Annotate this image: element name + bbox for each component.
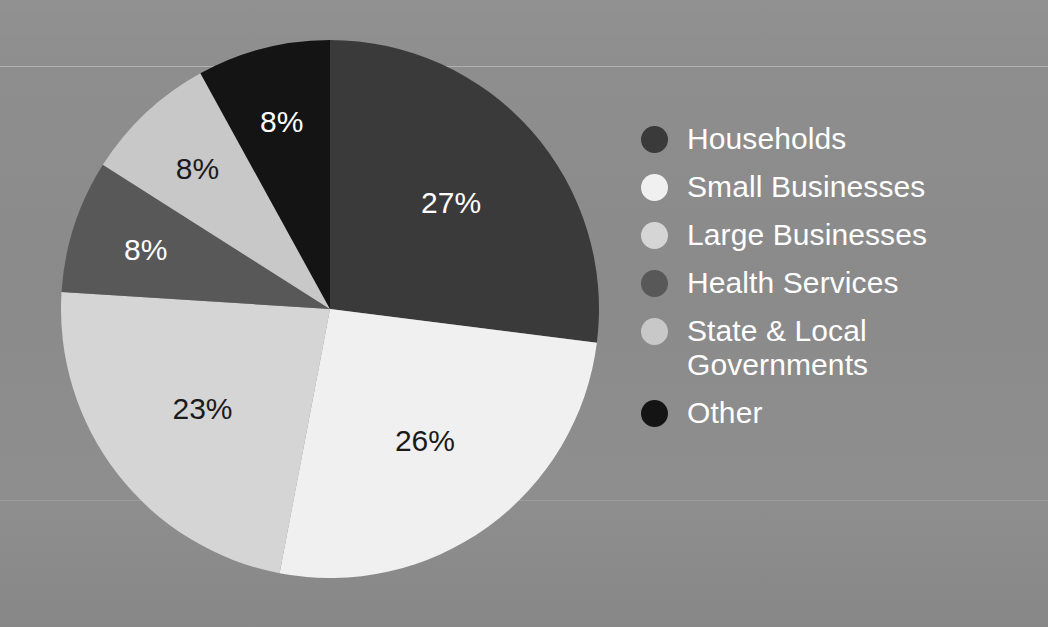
legend-swatch-state-local-governments xyxy=(641,318,668,345)
legend-label-small-businesses: Small Businesses xyxy=(687,170,925,204)
legend-label-health-services: Health Services xyxy=(687,266,899,300)
legend-label-households: Households xyxy=(687,122,846,156)
legend-swatch-large-businesses xyxy=(641,222,668,249)
legend-swatch-other xyxy=(641,400,668,427)
legend-item-other[interactable]: Other xyxy=(641,396,1031,430)
pie-slice-value-label: 8% xyxy=(124,233,167,266)
legend-item-state-local-governments[interactable]: State & Local Governments xyxy=(641,314,1031,382)
legend-swatch-health-services xyxy=(641,270,668,297)
legend-item-small-businesses[interactable]: Small Businesses xyxy=(641,170,1031,204)
chart-legend: Households Small Businesses Large Busine… xyxy=(641,122,1031,430)
pie-chart: 27%26%23%8%8%8% xyxy=(61,40,599,578)
pie-chart-svg: 27%26%23%8%8%8% xyxy=(61,40,599,578)
legend-label-other: Other xyxy=(687,396,763,430)
pie-slice-group xyxy=(61,40,599,578)
legend-item-large-businesses[interactable]: Large Businesses xyxy=(641,218,1031,252)
legend-swatch-households xyxy=(641,126,668,153)
legend-swatch-small-businesses xyxy=(641,174,668,201)
chart-page: 27%26%23%8%8%8% Households Small Busines… xyxy=(0,0,1048,627)
pie-slice-value-label: 26% xyxy=(395,424,455,457)
pie-slice-value-label: 27% xyxy=(421,186,481,219)
legend-item-households[interactable]: Households xyxy=(641,122,1031,156)
legend-label-state-local-governments: State & Local Governments xyxy=(687,314,868,382)
pie-slice-value-label: 8% xyxy=(260,105,303,138)
pie-slice-value-label: 23% xyxy=(172,392,232,425)
legend-label-large-businesses: Large Businesses xyxy=(687,218,927,252)
legend-item-health-services[interactable]: Health Services xyxy=(641,266,1031,300)
pie-slice-value-label: 8% xyxy=(176,152,219,185)
